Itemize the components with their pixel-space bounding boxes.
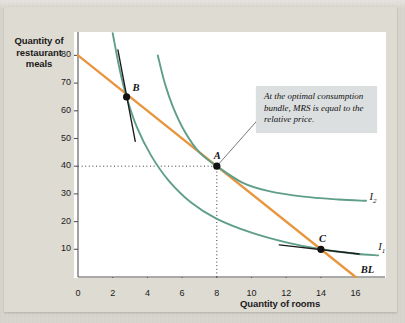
- y-tick-label: 60: [45, 105, 71, 115]
- chart-canvas: [74, 32, 386, 278]
- data-point-A: [213, 163, 220, 170]
- y-axis-title-line-1: Quantity of: [6, 35, 72, 47]
- data-point-C: [317, 246, 324, 253]
- figure-card: Quantity of restaurant meals Quantity of…: [4, 7, 397, 312]
- x-tick-label: 0: [68, 288, 88, 298]
- y-tick-label: 70: [45, 77, 71, 87]
- series-label-I1: I1: [378, 241, 385, 255]
- y-tick-label: 30: [45, 188, 71, 198]
- x-tick-label: 2: [103, 288, 123, 298]
- y-axis-title-line-3: meals: [6, 58, 72, 70]
- data-point-B: [123, 93, 130, 100]
- y-tick-label: 20: [45, 216, 71, 226]
- y-tick-label: 80: [45, 49, 71, 59]
- x-tick-label: 6: [172, 288, 192, 298]
- x-axis-title: Quantity of rooms: [240, 298, 320, 309]
- series-label-BL: BL: [361, 264, 374, 275]
- optimal-bundle-callout: At the optimal consumption bundle, MRS i…: [256, 86, 377, 132]
- plot-area: [74, 32, 386, 278]
- x-tick-label: 8: [207, 288, 227, 298]
- y-tick-label: 10: [45, 243, 71, 253]
- point-label-C: C: [319, 233, 326, 244]
- y-tick-label: 40: [45, 160, 71, 170]
- x-tick-label: 14: [311, 288, 331, 298]
- x-tick-label: 10: [242, 288, 262, 298]
- point-label-B: B: [133, 82, 140, 93]
- series-I1: [113, 33, 378, 255]
- x-tick-label: 12: [276, 288, 296, 298]
- series-label-I2: I2: [369, 191, 376, 205]
- point-label-A: A: [214, 150, 221, 161]
- x-tick-label: 16: [346, 288, 366, 298]
- y-tick-label: 50: [45, 133, 71, 143]
- figure-page: Quantity of restaurant meals Quantity of…: [0, 0, 405, 323]
- callout-leader-line: [217, 119, 259, 166]
- x-tick-label: 4: [137, 288, 157, 298]
